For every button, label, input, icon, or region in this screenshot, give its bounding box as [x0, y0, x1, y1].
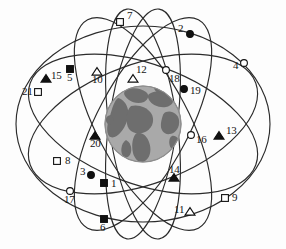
satellite-label-5: 5 — [67, 72, 72, 83]
satellite-marker-3 — [88, 172, 95, 179]
satellite-marker-11 — [185, 208, 195, 215]
satellite-label-3: 3 — [80, 166, 85, 177]
satellite-label-16: 16 — [196, 134, 207, 145]
satellite-label-20: 20 — [90, 138, 101, 149]
satellite-marker-21 — [35, 89, 42, 96]
satellite-label-21: 21 — [22, 86, 33, 97]
satellite-marker-1 — [101, 180, 108, 187]
satellite-label-9: 9 — [232, 192, 237, 203]
satellite-label-4: 4 — [233, 60, 238, 71]
satellite-marker-4 — [241, 60, 248, 67]
satellite-constellation-figure: 123456789101112131415161718192021 — [0, 0, 286, 249]
satellite-label-18: 18 — [169, 73, 180, 84]
satellite-marker-19 — [181, 86, 188, 93]
satellite-label-17: 17 — [64, 194, 75, 205]
satellite-label-8: 8 — [65, 155, 70, 166]
satellite-marker-8 — [54, 158, 61, 165]
satellite-marker-7 — [117, 19, 124, 26]
satellite-marker-16 — [188, 132, 195, 139]
satellite-marker-9 — [222, 195, 229, 202]
satellite-label-15: 15 — [51, 70, 62, 81]
satellite-label-1: 1 — [111, 178, 116, 189]
satellite-label-13: 13 — [226, 125, 237, 136]
satellite-label-11: 11 — [174, 204, 184, 215]
satellite-label-14: 14 — [169, 164, 180, 175]
satellite-label-19: 19 — [190, 85, 201, 96]
satellite-label-7: 7 — [127, 10, 132, 21]
satellite-label-12: 12 — [136, 64, 147, 75]
satellite-label-2: 2 — [178, 23, 183, 34]
satellite-label-6: 6 — [100, 222, 105, 233]
constellation-diagram — [0, 0, 286, 249]
earth-globe — [105, 85, 181, 162]
satellite-marker-15 — [41, 75, 51, 82]
satellite-label-10: 10 — [92, 74, 103, 85]
satellite-marker-2 — [187, 31, 194, 38]
satellite-marker-12 — [128, 75, 138, 82]
satellite-marker-13 — [214, 132, 224, 139]
